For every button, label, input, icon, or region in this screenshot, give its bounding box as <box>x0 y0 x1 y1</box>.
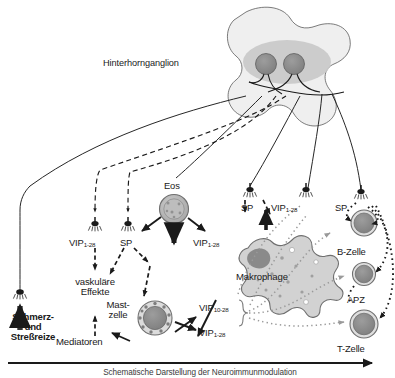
mast-cell-line2: zelle <box>97 310 139 320</box>
vip-left-text: VIP <box>69 237 84 248</box>
vip-mid-label: VIP1-28 <box>271 203 297 213</box>
vip-eos-label: VIP1-28 <box>193 238 219 248</box>
stimulus-line3: Streßreize <box>0 332 66 342</box>
mast-cell-label: VIP Mast- zelle <box>97 300 139 320</box>
vip-10-28-sub: 10-28 <box>214 306 229 313</box>
mast-cell-body <box>138 301 172 335</box>
nerve-terminal <box>243 183 256 197</box>
vip-1-28-mast-text: VIP <box>199 327 214 338</box>
vip-1-28-mast-sub: 1-28 <box>214 331 226 338</box>
stimulus-label: Schmerz- und Streßreize <box>0 312 66 341</box>
dorsal-root-ganglion <box>227 7 350 126</box>
vip-eos-sub: 1-28 <box>208 241 220 248</box>
vip-eos-text: VIP <box>193 237 208 248</box>
vip-left-label: VIP1-28 <box>69 238 95 248</box>
sp-right-label: SP <box>335 203 347 213</box>
vip-mid-text: VIP <box>271 202 286 213</box>
neuron-soma <box>284 54 305 75</box>
nerve-terminal <box>88 217 101 231</box>
macrophage-label: Makrophage <box>236 272 288 282</box>
nerve-terminal <box>13 289 26 299</box>
sp-left-label: SP <box>120 238 132 248</box>
t-cell-label: T-Zelle <box>337 344 365 354</box>
apc-label: APZ <box>347 295 365 305</box>
nerve-terminal <box>354 185 367 199</box>
lymphocyte-group <box>350 210 378 338</box>
vip-10-28-label: VIP10-28 <box>199 303 229 313</box>
vip-brace <box>239 300 248 326</box>
vip-1-28-mast-label: VIP1-28 <box>199 328 225 338</box>
vip-left-sub: 1-28 <box>84 241 96 248</box>
eosinophil-label: Eos <box>164 181 180 191</box>
diagram-canvas: Hinterhornganglion Eos VIP1-28 SP VIP1-2… <box>0 0 395 378</box>
b-cell-label: B-Zelle <box>337 247 366 257</box>
nerve-terminal <box>299 183 312 197</box>
vip-10-28-text: VIP <box>199 302 214 313</box>
ganglion-label: Hinterhornganglion <box>103 59 179 68</box>
axis-caption: Schematische Darstellung der Neuroimmunm… <box>75 369 325 377</box>
nerve-terminal <box>121 217 134 231</box>
sp-mid-label: SP <box>241 203 253 213</box>
vip-mid-sub: 1-28 <box>286 206 298 213</box>
neuron-soma <box>256 54 277 75</box>
vascular-effects-label: vaskuläre Effekte <box>60 277 130 297</box>
vascular-effects-line2: Effekte <box>60 287 130 297</box>
eosinophil-cell <box>160 195 189 224</box>
